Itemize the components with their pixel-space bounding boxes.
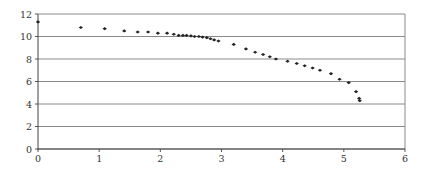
data-point-marker [146,30,150,33]
data-point-marker [274,57,278,60]
data-point-marker [232,43,236,46]
data-point-marker [310,66,314,69]
data-point-marker [165,32,169,35]
x-tick-label: 5 [341,153,347,164]
y-tick-label: 8 [26,54,32,65]
y-tick-label: 6 [26,76,32,87]
data-point-marker [192,35,196,38]
data-point-marker [36,20,40,23]
y-tick-label: 4 [26,99,32,110]
data-point-marker [268,55,272,58]
data-point-marker [358,99,362,102]
data-point-marker [79,26,83,29]
x-axis-tick-labels: 0123456 [35,153,408,164]
y-tick-label: 12 [20,9,32,20]
data-point-marker [200,35,204,38]
data-point-marker [302,64,306,67]
data-point-marker [156,32,160,35]
y-tick-label: 0 [26,144,32,155]
data-points [36,20,362,102]
x-tick-label: 4 [280,153,286,164]
x-tick-label: 2 [157,153,163,164]
scatter-chart: 024681012 0123456 [0,0,427,177]
x-tick-label: 6 [402,153,408,164]
data-point-marker [329,72,333,75]
x-tick-label: 0 [35,153,41,164]
data-point-marker [197,35,201,38]
data-point-marker [253,51,257,54]
data-point-marker [354,90,358,93]
data-point-marker [337,78,341,81]
data-point-marker [244,47,248,50]
data-point-marker [189,34,193,37]
data-point-marker [136,30,140,33]
data-point-marker [261,53,265,56]
data-point-marker [295,62,299,65]
data-point-marker [216,39,220,42]
data-point-marker [285,60,289,63]
x-tick-label: 1 [96,153,102,164]
y-axis-tick-labels: 024681012 [20,9,32,155]
data-point-marker [122,29,126,32]
data-point-marker [172,33,176,36]
data-point-marker [102,27,106,30]
data-point-marker [318,69,322,72]
gridlines [38,14,405,149]
y-tick-label: 2 [26,121,32,132]
y-tick-label: 10 [20,31,32,42]
x-tick-label: 3 [218,153,224,164]
